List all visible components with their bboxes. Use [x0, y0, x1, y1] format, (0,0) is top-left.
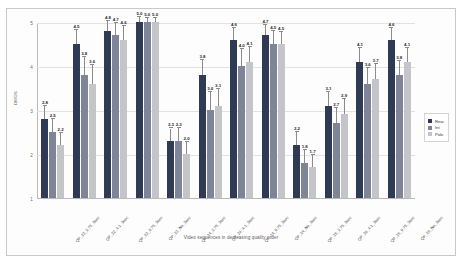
error-bar-cap — [208, 91, 212, 92]
error-bar — [178, 128, 179, 141]
error-bar — [273, 31, 274, 44]
y-tick-label: 2 — [30, 153, 33, 158]
legend-swatch — [428, 119, 432, 123]
error-bar — [344, 99, 345, 114]
bar-value-label: 3.0 — [207, 86, 213, 91]
bar: 3.6 — [89, 84, 96, 198]
bar: 4.7 — [112, 35, 119, 198]
error-bar-cap — [145, 17, 149, 18]
bar: 3.1 — [325, 106, 332, 198]
bar: 4.1 — [356, 62, 363, 198]
error-bar-cap — [43, 105, 47, 106]
bar: 4.5 — [270, 44, 277, 198]
error-bar-cap — [177, 127, 181, 128]
bar-value-label: 1.7 — [309, 149, 315, 154]
bar-value-label: 4.5 — [270, 25, 276, 30]
chart-legend: RearIntPole — [424, 113, 449, 142]
bar-group: 3.12.72.9 — [321, 23, 353, 198]
error-bar — [304, 150, 305, 163]
bar-value-label: 2.9 — [341, 93, 347, 98]
bar: 4.1 — [246, 62, 253, 198]
error-bar-cap — [185, 141, 189, 142]
error-bar — [407, 48, 408, 62]
y-tick-label: 1 — [30, 197, 33, 202]
legend-item[interactable]: Pole — [428, 132, 444, 137]
error-bar-cap — [74, 29, 78, 30]
bar-group: 4.13.63.7 — [352, 23, 384, 198]
bar: 4.0 — [238, 66, 245, 198]
bar: 2.0 — [183, 154, 190, 198]
legend-label: Pole — [435, 132, 443, 137]
bar: 3.1 — [215, 106, 222, 198]
y-tick-label: 3 — [30, 109, 33, 114]
error-bar-cap — [240, 48, 244, 49]
error-bar-cap — [122, 25, 126, 26]
bar-value-label: 2.2 — [57, 127, 63, 132]
error-bar — [147, 18, 148, 22]
error-bar-cap — [263, 24, 267, 25]
bar: 4.5 — [278, 44, 285, 198]
bar: 4.6 — [120, 40, 127, 198]
bar-value-label: 3.8 — [81, 51, 87, 56]
bar-value-label: 4.5 — [73, 24, 79, 29]
bar-value-label: 4.6 — [388, 22, 394, 27]
bar-value-label: 2.0 — [183, 136, 189, 141]
x-axis-line — [37, 198, 415, 199]
bar-value-label: 2.5 — [50, 113, 56, 118]
bar-value-label: 4.1 — [357, 42, 363, 47]
error-bar-cap — [248, 46, 252, 47]
bar: 2.3 — [167, 141, 174, 198]
bar-group: 2.32.32.0 — [163, 23, 195, 198]
error-bar-cap — [82, 56, 86, 57]
bar: 5.0 — [144, 22, 151, 198]
legend-swatch — [428, 132, 432, 136]
bar-value-label: 1.8 — [302, 144, 308, 149]
bar-value-label: 2.2 — [294, 126, 300, 131]
bar-value-label: 3.8 — [396, 55, 402, 60]
legend-label: Rear — [435, 119, 444, 124]
bar: 2.9 — [341, 114, 348, 198]
bar: 3.8 — [81, 75, 88, 198]
error-bar — [115, 23, 116, 35]
error-bar — [44, 106, 45, 119]
error-bar-cap — [90, 64, 94, 65]
error-bar — [233, 28, 234, 39]
bar: 2.2 — [57, 145, 64, 198]
x-axis-label: Video sequences in decreasing quality or… — [7, 235, 455, 240]
bar-value-label: 3.8 — [199, 54, 205, 59]
error-bar-cap — [405, 47, 409, 48]
bar: 2.2 — [293, 145, 300, 198]
bar-value-label: 4.1 — [246, 41, 252, 46]
bar-value-label: 4.0 — [239, 43, 245, 48]
legend-item[interactable]: Int — [428, 125, 444, 130]
error-bar — [367, 68, 368, 84]
error-bar-cap — [51, 118, 55, 119]
bar-value-label: 4.8 — [105, 15, 111, 20]
legend-item[interactable]: Rear — [428, 119, 444, 124]
bar-value-label: 3.6 — [365, 62, 371, 67]
chart-container: DMOS 12345 2.82.52.24.53.83.64.84.74.65.… — [6, 8, 456, 256]
bar: 5.0 — [136, 22, 143, 198]
bar-value-label: 3.1 — [215, 83, 221, 88]
bar: 2.7 — [333, 123, 340, 198]
error-bar — [210, 92, 211, 110]
error-bar-cap — [374, 63, 378, 64]
y-tick-label: 4 — [30, 65, 33, 70]
error-bar — [359, 48, 360, 61]
bar-value-label: 4.5 — [278, 26, 284, 31]
error-bar — [155, 18, 156, 22]
plot-area: 12345 2.82.52.24.53.83.64.84.74.65.05.05… — [37, 23, 415, 199]
error-bar — [265, 25, 266, 36]
bar-value-label: 4.6 — [231, 22, 237, 27]
bar-group: 5.05.05.0 — [132, 23, 164, 198]
bar: 1.8 — [301, 163, 308, 198]
error-bar-cap — [334, 107, 338, 108]
bar-value-label: 2.3 — [176, 122, 182, 127]
error-bar — [202, 60, 203, 75]
error-bar — [123, 26, 124, 39]
bar-group: 4.84.74.6 — [100, 23, 132, 198]
bar: 3.0 — [207, 110, 214, 198]
bar-value-label: 3.1 — [325, 86, 331, 91]
bar-value-label: 2.7 — [333, 102, 339, 107]
error-bar-cap — [358, 47, 362, 48]
